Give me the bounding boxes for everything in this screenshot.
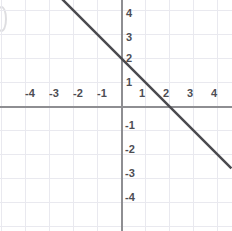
graph-screenshot: -4-3-2-11234 4321-1-2-3-4 bbox=[0, 0, 232, 231]
y-tick-label: -1 bbox=[125, 120, 135, 131]
y-tick-label: -3 bbox=[125, 168, 135, 179]
y-tick-label: 4 bbox=[126, 8, 132, 19]
y-tick-label: -4 bbox=[125, 192, 135, 203]
y-axis-tick-labels: 4321-1-2-3-4 bbox=[0, 0, 232, 231]
y-tick-label: 2 bbox=[126, 53, 132, 64]
y-tick-label: -2 bbox=[125, 144, 135, 155]
y-tick-label: 1 bbox=[126, 77, 132, 88]
y-tick-label: 3 bbox=[126, 32, 132, 43]
